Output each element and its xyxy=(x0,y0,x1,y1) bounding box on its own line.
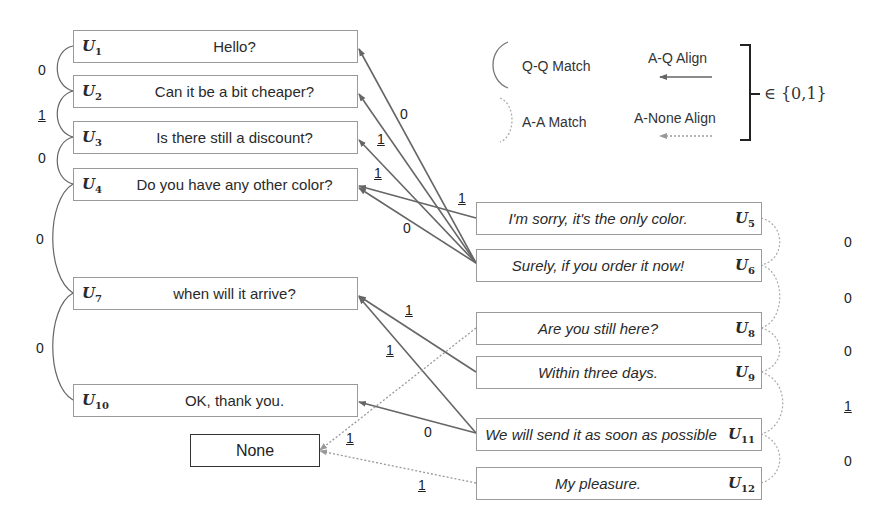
aa-match-arcs xyxy=(761,218,783,483)
utterance-id: U2 xyxy=(82,82,102,102)
utterance-id: U12 xyxy=(728,474,755,494)
utterance-text: Do you have any other color? xyxy=(74,176,357,193)
aq-label-u5-u4: 1 xyxy=(458,190,466,206)
aq-label-u8-none: 1 xyxy=(346,430,354,446)
aq-label-u6-u4: 0 xyxy=(403,220,411,236)
utterance-id: U4 xyxy=(82,175,102,195)
answer-box-u9: Within three days. U9 xyxy=(476,356,762,389)
legend-aa-match: A-A Match xyxy=(522,114,587,130)
utterance-id: U7 xyxy=(82,284,102,304)
utterance-text: Are you still here? xyxy=(477,320,761,337)
utterance-id: U3 xyxy=(82,128,102,148)
aa-label-u6-u8: 0 xyxy=(844,290,852,306)
aq-label-u11-u10: 0 xyxy=(424,424,432,440)
question-box-u1: U1 Hello? xyxy=(73,30,358,63)
utterance-id: U5 xyxy=(735,209,755,229)
legend-set-label: ∈ {0,1} xyxy=(764,84,827,103)
utterance-text: I'm sorry, it's the only color. xyxy=(477,210,761,227)
utterance-text: Is there still a discount? xyxy=(74,129,357,146)
legend-qq-match: Q-Q Match xyxy=(522,58,590,74)
utterance-text: Within three days. xyxy=(477,364,761,381)
aq-label-u11-u7: 1 xyxy=(386,342,394,358)
question-box-u7: U7 when will it arrive? xyxy=(73,277,358,310)
utterance-id: U8 xyxy=(735,319,755,339)
answer-box-u12: My pleasure. U12 xyxy=(476,467,762,500)
answer-box-u5: I'm sorry, it's the only color. U5 xyxy=(476,202,762,235)
utterance-id: U9 xyxy=(735,363,755,383)
aq-label-u9-u7: 1 xyxy=(405,302,413,318)
utterance-id: U1 xyxy=(82,37,102,57)
utterance-text: Hello? xyxy=(74,38,357,55)
utterance-id: U6 xyxy=(735,256,755,276)
utterance-text: Can it be a bit cheaper? xyxy=(74,83,357,100)
question-box-u4: U4 Do you have any other color? xyxy=(73,168,358,201)
answer-box-u11: We will send it as soon as possible U11 xyxy=(476,418,762,451)
aq-align-arrows xyxy=(359,49,476,433)
qq-match-arcs xyxy=(53,46,73,400)
qq-label-u4-u7: 0 xyxy=(36,231,44,247)
question-box-u10: U10 OK, thank you. xyxy=(73,384,358,417)
qq-label-u2-u3: 1 xyxy=(38,107,46,123)
aa-label-u5-u6: 0 xyxy=(844,234,852,250)
aq-label-u6-u2: 1 xyxy=(377,131,385,147)
aq-label-u6-u1: 0 xyxy=(400,106,408,122)
utterance-text: My pleasure. xyxy=(477,475,761,492)
answer-box-u8: Are you still here? U8 xyxy=(476,312,762,345)
question-box-u2: U2 Can it be a bit cheaper? xyxy=(73,75,358,108)
legend-anone-align: A-None Align xyxy=(634,110,716,126)
qq-label-u3-u4: 0 xyxy=(38,150,46,166)
aq-label-u6-u3: 1 xyxy=(374,165,382,181)
utterance-id: U11 xyxy=(728,425,755,445)
answer-box-u6: Surely, if you order it now! U6 xyxy=(476,249,762,282)
qq-label-u1-u2: 0 xyxy=(38,62,46,78)
none-box: None xyxy=(190,434,320,467)
utterance-text: We will send it as soon as possible xyxy=(477,426,761,443)
aa-label-u8-u9: 0 xyxy=(844,343,852,359)
question-box-u3: U3 Is there still a discount? xyxy=(73,121,358,154)
qq-label-u7-u10: 0 xyxy=(36,340,44,356)
utterance-id: U10 xyxy=(82,391,109,411)
utterance-text: OK, thank you. xyxy=(74,392,357,409)
aa-label-u9-u11: 1 xyxy=(844,398,852,414)
legend-aq-align: A-Q Align xyxy=(648,50,707,66)
aq-label-u12-none: 1 xyxy=(418,477,426,493)
utterance-text: Surely, if you order it now! xyxy=(477,257,761,274)
utterance-text: when will it arrive? xyxy=(74,285,357,302)
aa-label-u11-u12: 0 xyxy=(844,453,852,469)
